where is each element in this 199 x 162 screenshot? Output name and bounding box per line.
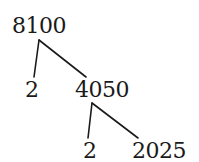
node-level2-right: 2025 [132, 140, 186, 162]
node-root: 8100 [12, 15, 66, 37]
node-level1-left: 2 [25, 79, 39, 101]
factor-tree: 8100 2 4050 2 2025 [0, 0, 199, 162]
edge-4050-to-2025 [92, 103, 138, 138]
node-level2-left: 2 [83, 140, 97, 162]
edge-4050-to-2 [88, 103, 92, 138]
node-level1-right: 4050 [75, 79, 129, 101]
edge-8100-to-2 [34, 40, 39, 77]
edge-8100-to-4050 [39, 40, 86, 77]
